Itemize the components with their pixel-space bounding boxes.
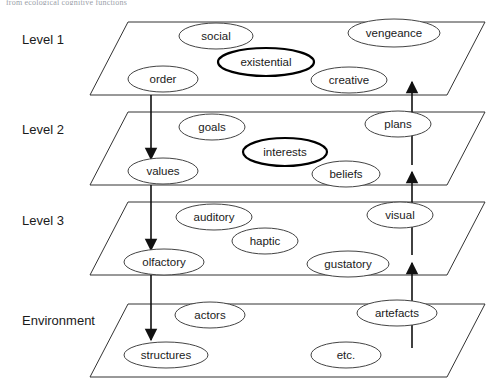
node-vengeance[interactable]: vengeance bbox=[348, 19, 440, 47]
level-label-level-2: Level 2 bbox=[22, 122, 64, 137]
node-visual[interactable]: visual bbox=[367, 202, 433, 228]
node-olfactory[interactable]: olfactory bbox=[124, 249, 204, 275]
node-label: interests bbox=[263, 146, 307, 158]
level-label-level-3: Level 3 bbox=[22, 213, 64, 228]
node-social[interactable]: social bbox=[179, 23, 253, 49]
node-creative[interactable]: creative bbox=[311, 67, 387, 93]
node-label: values bbox=[146, 165, 179, 177]
node-artefacts[interactable]: artefacts bbox=[357, 300, 437, 326]
node-auditory[interactable]: auditory bbox=[176, 204, 252, 230]
node-plans[interactable]: plans bbox=[365, 111, 431, 137]
node-label: visual bbox=[385, 209, 414, 221]
level-label-environment: Environment bbox=[22, 313, 95, 328]
node-label: auditory bbox=[194, 211, 235, 223]
node-label: plans bbox=[384, 118, 412, 130]
node-actors[interactable]: actors bbox=[175, 302, 245, 328]
node-label: haptic bbox=[250, 235, 281, 247]
node-label: vengeance bbox=[366, 27, 422, 39]
layered-cognition-diagram: socialvengeanceexistentialordercreativeg… bbox=[0, 0, 499, 391]
node-label: existential bbox=[240, 56, 291, 68]
node-label: social bbox=[201, 30, 230, 42]
node-existential[interactable]: existential bbox=[218, 48, 314, 76]
node-haptic[interactable]: haptic bbox=[232, 228, 298, 254]
node-label: goals bbox=[198, 121, 226, 133]
node-label: creative bbox=[329, 74, 369, 86]
node-structures[interactable]: structures bbox=[124, 342, 208, 368]
node-interests[interactable]: interests bbox=[243, 138, 327, 166]
node-etc[interactable]: etc. bbox=[311, 342, 381, 368]
node-label: beliefs bbox=[329, 168, 362, 180]
node-order[interactable]: order bbox=[128, 66, 198, 92]
diagram-canvas: socialvengeanceexistentialordercreativeg… bbox=[0, 0, 499, 391]
node-label: gustatory bbox=[324, 258, 372, 270]
node-label: actors bbox=[194, 309, 226, 321]
node-label: order bbox=[150, 73, 177, 85]
node-beliefs[interactable]: beliefs bbox=[312, 161, 380, 187]
node-label: structures bbox=[141, 349, 192, 361]
node-values[interactable]: values bbox=[128, 158, 198, 184]
level-labels-group: Level 1Level 2Level 3Environment bbox=[22, 32, 95, 328]
node-goals[interactable]: goals bbox=[179, 114, 245, 140]
level-label-level-1: Level 1 bbox=[22, 32, 64, 47]
node-gustatory[interactable]: gustatory bbox=[307, 251, 389, 277]
node-label: artefacts bbox=[375, 307, 419, 319]
node-label: etc. bbox=[337, 349, 356, 361]
node-label: olfactory bbox=[142, 256, 186, 268]
